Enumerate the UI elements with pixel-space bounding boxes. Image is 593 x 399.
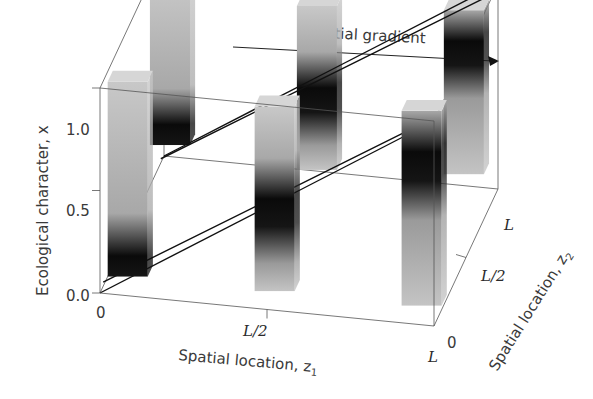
z-axis-title: Ecological character, x xyxy=(34,125,52,296)
z2-tick-label-0: 0 xyxy=(447,334,457,352)
z-tick-label-1: 0.5 xyxy=(66,202,90,220)
bar-0-0 xyxy=(108,82,148,277)
bar-L/2-0 xyxy=(255,107,295,292)
bar-top-face xyxy=(255,96,300,107)
bar-side-face xyxy=(337,0,342,170)
bar-side-face xyxy=(442,100,447,306)
gradient-arrow-head xyxy=(488,56,499,66)
chart-stage: Spatial gradient 0.0 0.5 1.0 0 L/2 L 0 L… xyxy=(0,0,593,399)
z1-tick-label-1: L/2 xyxy=(242,322,268,340)
bar-L-0 xyxy=(402,111,442,306)
bar-side-face xyxy=(190,0,195,145)
z-tick-label-0: 0.0 xyxy=(66,287,90,305)
z-tick-label-2: 1.0 xyxy=(66,121,90,139)
z1-axis-title: Spatial location, z1 xyxy=(177,346,318,378)
bar-top-face xyxy=(108,71,153,82)
z2-tick-label-1: L/2 xyxy=(480,267,506,285)
bar-top-face xyxy=(402,100,447,111)
bar-L-L xyxy=(444,10,484,174)
bar-side-face xyxy=(148,71,153,277)
z1-tick-label-0: 0 xyxy=(96,304,106,322)
z2-tick-mid xyxy=(456,255,466,258)
bar-side-face xyxy=(484,0,489,174)
z1-axis-title-sub: 1 xyxy=(310,367,317,379)
bar-0-L xyxy=(150,0,190,145)
z2-tick-label-2: L xyxy=(503,216,514,234)
z2-axis-title: Spatial location, z2 xyxy=(485,246,576,375)
bar3d-chart: Spatial gradient 0.0 0.5 1.0 0 L/2 L 0 L… xyxy=(0,0,593,399)
bar-side-face xyxy=(295,96,300,291)
bar-top-face xyxy=(297,0,342,6)
z1-tick-label-2: L xyxy=(427,348,438,366)
